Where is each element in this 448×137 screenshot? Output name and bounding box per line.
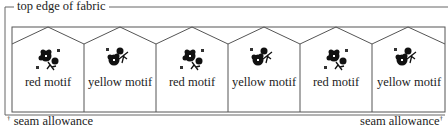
panel-label: red motif xyxy=(12,75,84,90)
seam-right-text: seam allowance xyxy=(360,114,439,128)
panel-label: yellow motif xyxy=(84,75,156,90)
panel-label: red motif xyxy=(156,75,228,90)
panel-label: yellow motif xyxy=(373,75,445,90)
flower-motif-icon xyxy=(324,49,348,70)
panel-roofs xyxy=(12,27,445,44)
top-edge-label: top edge of fabric xyxy=(14,0,109,14)
panel-label: yellow motif xyxy=(228,75,300,90)
flower-motif-icon xyxy=(250,48,272,66)
seam-marker: † xyxy=(7,114,11,122)
panel-label: red motif xyxy=(300,75,372,90)
seam-allowance-left-label: † seam allowance xyxy=(7,114,93,129)
seam-marker: † xyxy=(440,114,444,122)
flower-motif-icon xyxy=(36,49,60,70)
seam-allowance-right-label: seam allowance† xyxy=(360,114,443,129)
flower-motif-icon xyxy=(180,49,204,70)
seam-left-text: seam allowance xyxy=(14,114,93,128)
flower-motif-icon xyxy=(106,48,128,66)
flower-motif-icon xyxy=(394,48,416,66)
